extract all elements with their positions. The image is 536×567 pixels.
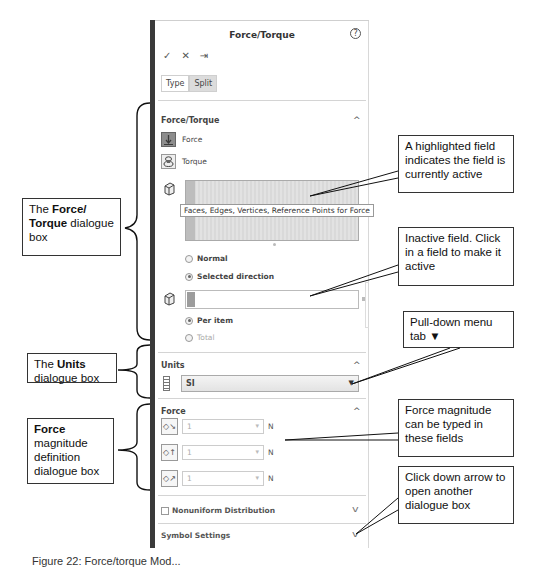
force-x-icon[interactable]: ◇↘ [161, 418, 178, 435]
units-ruler-icon [163, 376, 170, 391]
collapse-units-icon[interactable]: ^ [353, 360, 361, 370]
resize-handle[interactable] [273, 243, 276, 246]
callout-pulldown-tab: Pull-down menu tab ▼ [403, 311, 514, 348]
direction-field-inactive[interactable] [185, 290, 359, 309]
radio-total-label: Total [197, 333, 215, 342]
field-side-bracket [365, 282, 369, 328]
direction-field-accent [187, 292, 195, 307]
selection-cube-icon [163, 182, 176, 199]
tab-type[interactable]: Type [161, 75, 189, 92]
callout-down-arrow: Click down arrow to open another dialogu… [398, 466, 514, 524]
nonuniform-label: Nonuniform Distribution [172, 506, 275, 515]
ok-check-icon[interactable]: ✓ [163, 50, 171, 61]
tab-split[interactable]: Split [189, 75, 217, 92]
force-z-icon[interactable]: ◇↗ [161, 470, 178, 487]
cancel-x-icon[interactable]: ✕ [181, 50, 189, 61]
force-z-input[interactable]: 1 ▾ [182, 471, 264, 486]
force-row-x: ◇↘ 1 ▾ N [161, 418, 274, 435]
help-icon[interactable]: ? [350, 28, 361, 39]
expand-nonuniform-chevron-icon[interactable]: v [352, 505, 359, 514]
spin-down-icon[interactable]: ▾ [255, 472, 259, 485]
section-header-force-torque[interactable]: Force/Torque [161, 116, 219, 125]
panel-title: Force/Torque [155, 30, 369, 40]
divider [158, 398, 366, 399]
radio-per-item-label: Per item [197, 316, 233, 325]
radio-selected-direction-label: Selected direction [197, 272, 274, 281]
units-selected-value: SI [186, 379, 195, 388]
force-arrow-icon[interactable] [161, 132, 176, 147]
radio-selected-direction[interactable]: Selected direction [185, 272, 274, 281]
force-x-value: 1 [187, 422, 192, 431]
radio-normal-label: Normal [197, 254, 228, 263]
callout-force-torque-dialogue: The Force/ Torque dialogue box [22, 198, 121, 256]
units-dropdown[interactable]: SI ▼ [181, 375, 359, 392]
torque-option-label: Torque [182, 157, 207, 166]
figure-caption: Figure 22: Force/torque Mod... [32, 555, 181, 567]
divider [158, 352, 366, 353]
collapse-force-torque-icon[interactable]: ^ [353, 115, 361, 125]
force-x-input[interactable]: 1 ▾ [182, 419, 264, 434]
action-buttons: ✓ ✕ ⇥ [163, 50, 208, 61]
selection-tooltip: Faces, Edges, Vertices, Reference Points… [180, 204, 374, 217]
force-x-unit: N [268, 422, 274, 431]
expand-symbol-settings-chevron-icon[interactable]: v [352, 530, 359, 539]
radio-normal[interactable]: Normal [185, 254, 228, 263]
divider [158, 495, 366, 496]
callout-bold-text: Force [34, 423, 65, 435]
force-row-y: ◇↑ 1 ▾ N [161, 444, 274, 461]
callout-active-field: A highlighted field indicates the field … [398, 135, 514, 193]
force-torque-property-manager: Force/Torque ? ✓ ✕ ⇥ Type Split Force/To… [155, 20, 369, 548]
callout-inactive-field: Inactive field. Click in a field to make… [398, 227, 514, 286]
force-y-icon[interactable]: ◇↑ [161, 444, 178, 461]
callout-force-magnitude: Force magnitude can be typed in these fi… [398, 399, 514, 457]
radio-per-item[interactable]: Per item [185, 316, 233, 325]
pin-icon[interactable]: ⇥ [200, 50, 208, 61]
panel-top-divider [155, 20, 369, 21]
force-z-value: 1 [187, 474, 192, 483]
callout-units-dialogue: The Units dialogue box [27, 353, 117, 383]
section-header-symbol-settings[interactable]: Symbol Settings [161, 531, 230, 540]
nonuniform-checkbox[interactable] [161, 507, 169, 515]
field-side-handle[interactable] [362, 297, 365, 301]
callout-bold-text: Units [57, 358, 86, 370]
force-y-unit: N [268, 448, 274, 457]
radio-per-item-button[interactable] [185, 317, 193, 325]
nonuniform-distribution-row[interactable]: Nonuniform Distribution [161, 506, 275, 515]
divider [158, 523, 366, 524]
force-z-unit: N [268, 474, 274, 483]
force-option-label: Force [182, 135, 202, 144]
spin-down-icon[interactable]: ▾ [255, 420, 259, 433]
section-header-units[interactable]: Units [161, 361, 185, 370]
collapse-force-icon[interactable]: ^ [353, 406, 361, 416]
spin-down-icon[interactable]: ▾ [255, 446, 259, 459]
torque-icon[interactable] [161, 154, 176, 169]
direction-cube-icon [163, 292, 176, 309]
radio-total: Total [185, 333, 215, 342]
divider [158, 100, 366, 101]
radio-normal-button[interactable] [185, 255, 193, 263]
tab-bar: Type Split [161, 75, 217, 92]
dropdown-caret-icon[interactable]: ▼ [349, 376, 354, 391]
force-y-value: 1 [187, 448, 192, 457]
callout-force-magnitude-dialogue: Force magnitude definition dialogue box [27, 418, 114, 484]
force-row-z: ◇↗ 1 ▾ N [161, 470, 274, 487]
section-header-force[interactable]: Force [161, 407, 186, 416]
radio-total-button [185, 334, 193, 342]
force-y-input[interactable]: 1 ▾ [182, 445, 264, 460]
radio-selected-direction-button[interactable] [185, 273, 193, 281]
